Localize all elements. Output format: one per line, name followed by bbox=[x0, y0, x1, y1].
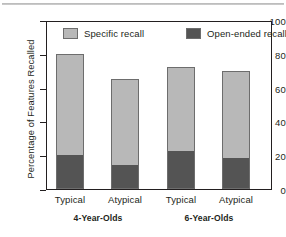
legend-item-open-ended-recall: Open-ended recall bbox=[186, 28, 286, 39]
x-tick-label-2: Atypical bbox=[95, 194, 155, 205]
legend-swatch-icon-specific bbox=[63, 28, 78, 39]
x-group-label-6-year-olds: 6-Year-Olds bbox=[149, 213, 269, 223]
legend-label-specific: Specific recall bbox=[84, 28, 144, 39]
bar-segment-specific bbox=[112, 80, 138, 165]
bar-segment-open-ended bbox=[223, 158, 249, 188]
bar-segment-specific bbox=[223, 72, 249, 158]
bar-6yo-typical bbox=[167, 67, 195, 189]
bar-segment-open-ended bbox=[168, 151, 194, 188]
page-top-rule bbox=[2, 3, 284, 5]
y-axis-title: Percentage of Features Recalled bbox=[26, 24, 36, 194]
y-tick-mark-0 bbox=[40, 190, 46, 191]
x-tick-label-3: Typical bbox=[151, 194, 211, 205]
bar-4yo-typical bbox=[56, 54, 84, 189]
legend-label-open-ended: Open-ended recall bbox=[207, 28, 286, 39]
legend-item-specific-recall: Specific recall bbox=[63, 28, 144, 39]
plot-area: Specific recall Open-ended recall bbox=[46, 21, 272, 190]
chart-legend: Specific recall Open-ended recall bbox=[63, 28, 286, 39]
bar-segment-open-ended bbox=[57, 155, 83, 188]
bar-segment-specific bbox=[168, 68, 194, 151]
stacked-bar-chart-figure: Percentage of Features Recalled 100 80 6… bbox=[0, 0, 286, 237]
bar-6yo-atypical bbox=[222, 71, 250, 189]
bar-segment-specific bbox=[57, 55, 83, 155]
x-tick-label-4: Atypical bbox=[206, 194, 266, 205]
bar-4yo-atypical bbox=[111, 79, 139, 189]
legend-swatch-icon-open-ended bbox=[186, 28, 201, 39]
x-group-label-4-year-olds: 4-Year-Olds bbox=[38, 213, 158, 223]
bar-segment-open-ended bbox=[112, 165, 138, 188]
x-tick-label-1: Typical bbox=[40, 194, 100, 205]
